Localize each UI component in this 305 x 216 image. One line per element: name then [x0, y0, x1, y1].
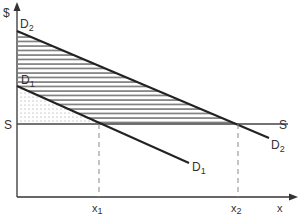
x1-label: x1: [92, 202, 103, 216]
x2-label: x2: [231, 202, 242, 216]
y-axis-label: $: [3, 6, 10, 20]
x-axis: [17, 194, 298, 201]
s-label-right: S: [279, 118, 287, 132]
d2-label-top: D2: [20, 17, 34, 33]
economics-diagram: $ x D2 D1 S S D2 D1 x1 x2: [0, 0, 305, 216]
d1-label-end: D1: [192, 160, 206, 176]
d2-label-end: D2: [271, 138, 285, 154]
x-axis-label: x: [277, 202, 283, 214]
s-label-left: S: [4, 118, 12, 132]
